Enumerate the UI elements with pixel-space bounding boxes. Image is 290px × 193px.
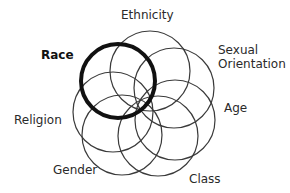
intersectionality-diagram: Ethnicity Race Sexual Orientation Age Re… bbox=[0, 0, 290, 193]
label-sexual-orientation-line1: Sexual bbox=[218, 43, 286, 57]
label-gender: Gender bbox=[53, 163, 97, 177]
label-class: Class bbox=[189, 172, 221, 186]
label-ethnicity: Ethnicity bbox=[121, 8, 174, 22]
label-age: Age bbox=[224, 101, 247, 115]
label-religion: Religion bbox=[14, 113, 62, 127]
circle-class bbox=[118, 96, 198, 176]
label-sexual-orientation: Sexual Orientation bbox=[218, 43, 286, 71]
label-race: Race bbox=[41, 48, 74, 62]
circle-rosette bbox=[0, 0, 290, 193]
circle-race bbox=[81, 44, 155, 118]
label-sexual-orientation-line2: Orientation bbox=[218, 57, 286, 71]
